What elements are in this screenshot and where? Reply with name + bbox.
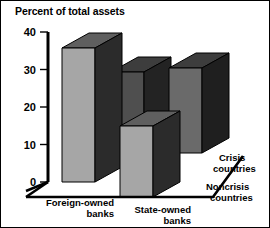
- bar-front-face: [120, 126, 153, 197]
- category-label-state-owned-line1: State-owned: [135, 204, 192, 215]
- bar-side-face: [95, 33, 122, 182]
- legend: Crisis countries Noncrisis countries: [206, 152, 256, 203]
- category-labels: Foreign-owned banks State-owned banks: [46, 197, 191, 226]
- bar-side-face: [153, 111, 180, 197]
- chart-container: Percent of total assets 40 30 20 10 0: [0, 0, 270, 228]
- bar-side-face: [202, 53, 229, 153]
- legend-item-noncrisis-line1: Noncrisis: [206, 181, 249, 192]
- chart-plot-area: 40 30 20 10 0: [1, 1, 270, 228]
- bar-noncrisis-foreign-owned: [62, 33, 122, 182]
- y-tick-label-30: 30: [24, 64, 36, 76]
- y-axis: 40 30 20 10 0: [24, 26, 48, 188]
- legend-item-crisis-line2: countries: [213, 163, 256, 174]
- y-tick-label-10: 10: [24, 139, 36, 151]
- y-tick-label-40: 40: [24, 26, 36, 38]
- bar-front-face: [62, 48, 95, 182]
- chart-svg: 40 30 20 10 0: [1, 1, 270, 228]
- category-label-foreign-owned-line2: banks: [87, 208, 114, 219]
- category-label-state-owned-line2: banks: [164, 215, 191, 226]
- legend-item-noncrisis-line2: countries: [210, 192, 253, 203]
- legend-item-crisis-line1: Crisis: [219, 152, 245, 163]
- bar-noncrisis-state-owned: [120, 111, 180, 197]
- category-label-foreign-owned-line1: Foreign-owned: [46, 197, 114, 208]
- y-tick-label-20: 20: [24, 101, 36, 113]
